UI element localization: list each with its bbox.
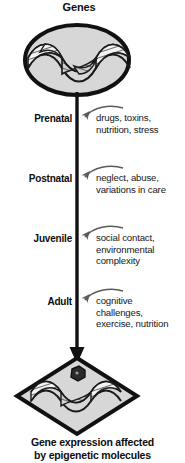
stage-label-postnatal: Postnatal <box>0 173 72 184</box>
factors-prenatal-line1: drugs, toxins, <box>96 112 185 124</box>
factors-adult: cognitive challenges, exercise, nutritio… <box>96 295 185 330</box>
gene-expression-node <box>17 358 137 434</box>
genes-ellipse <box>25 25 129 95</box>
factors-juvenile: social contact, environmental complexity <box>96 232 185 267</box>
factors-prenatal: drugs, toxins, nutrition, stress <box>96 112 185 135</box>
stage-label-adult: Adult <box>0 296 72 307</box>
methyl-highlight <box>75 371 78 374</box>
genes-node <box>25 25 130 95</box>
factors-prenatal-line2: nutrition, stress <box>96 124 185 136</box>
influence-arrows <box>85 106 123 300</box>
factors-adult-line2: challenges, <box>96 307 185 319</box>
factors-adult-line3: exercise, nutrition <box>96 318 185 330</box>
factors-juvenile-line2: environmental <box>96 244 185 256</box>
factors-juvenile-line3: complexity <box>96 255 185 267</box>
stage-label-prenatal: Prenatal <box>0 113 72 124</box>
outcome-caption-line2: by epigenetic molecules <box>0 449 185 462</box>
factors-postnatal-line1: neglect, abuse, <box>96 172 185 184</box>
outcome-caption: Gene expression affected by epigenetic m… <box>0 436 185 462</box>
stage-label-juvenile: Juvenile <box>0 233 72 244</box>
epigenetics-timeline-diagram: Genes <box>0 0 185 463</box>
factors-postnatal-line2: variations in care <box>96 184 185 196</box>
timeline-axis <box>70 92 85 364</box>
factors-adult-line1: cognitive <box>96 295 185 307</box>
outcome-caption-line1: Gene expression affected <box>0 436 185 449</box>
factors-postnatal: neglect, abuse, variations in care <box>96 172 185 195</box>
factors-juvenile-line1: social contact, <box>96 232 185 244</box>
